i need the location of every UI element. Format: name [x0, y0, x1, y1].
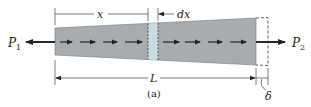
delta-leader — [261, 79, 266, 90]
p2-label: P2 — [291, 36, 305, 52]
figure-caption: (a) — [147, 88, 161, 99]
tapered-bar-diagram: P1 P2 x dx L δ (a) — [0, 0, 311, 107]
differential-element — [148, 23, 158, 60]
x-label: x — [97, 8, 104, 21]
delta-label: δ — [265, 90, 272, 103]
l-label: L — [149, 72, 157, 85]
p1-label: P1 — [7, 36, 21, 52]
dx-label: dx — [177, 8, 191, 21]
